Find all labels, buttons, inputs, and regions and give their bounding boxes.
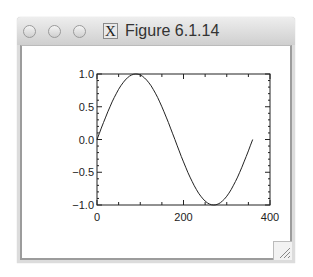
resize-grip-icon: [274, 242, 292, 260]
x-tick-label: 400: [261, 211, 279, 223]
line-chart: 1.00.50.0−0.5−1.00200400: [22, 46, 290, 258]
window-title: Figure 6.1.14: [125, 22, 219, 40]
x-tick-label: 0: [94, 211, 100, 223]
resize-handle[interactable]: [273, 241, 292, 260]
figure-window: X Figure 6.1.14 1.00.50.0−0.5−1.00200400: [17, 17, 295, 263]
y-tick-label: 1.0: [79, 68, 94, 80]
x-tick-label: 200: [174, 211, 192, 223]
figure-canvas: 1.00.50.0−0.5−1.00200400: [20, 45, 292, 260]
y-tick-label: −0.5: [72, 166, 94, 178]
minimize-button[interactable]: [48, 25, 61, 38]
series-line: [97, 74, 253, 205]
x11-icon: X: [103, 23, 118, 39]
title-bar[interactable]: X Figure 6.1.14: [17, 17, 295, 45]
y-tick-label: −1.0: [72, 199, 94, 211]
zoom-button[interactable]: [73, 25, 86, 38]
y-tick-label: 0.5: [79, 101, 94, 113]
close-button[interactable]: [23, 25, 36, 38]
y-tick-label: 0.0: [79, 134, 94, 146]
plot-frame: [97, 74, 270, 205]
